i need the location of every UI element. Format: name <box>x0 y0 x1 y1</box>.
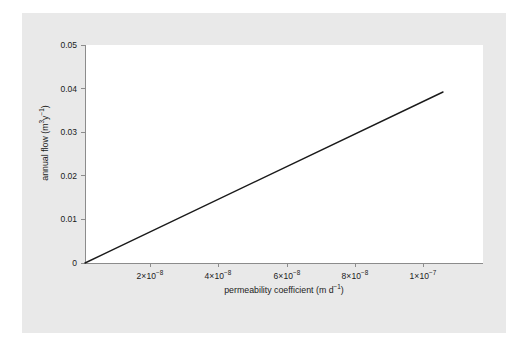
y-axis-title-exponent-2: −1 <box>38 108 45 115</box>
x-tick-label: 2×10−8 <box>137 272 164 281</box>
x-tick-exponent: −8 <box>156 269 163 276</box>
y-axis-title-prefix: annual flow (m <box>40 124 50 181</box>
x-tick-exponent: −8 <box>224 269 231 276</box>
x-tick-exponent: −8 <box>361 269 368 276</box>
x-tick-label: 1×10−7 <box>410 272 437 281</box>
y-axis-ticks <box>81 45 85 263</box>
y-axis-title-tail: ) <box>40 105 50 108</box>
x-axis-title-text: permeability coefficient (m d <box>224 285 333 295</box>
x-tick-label: 4×10−8 <box>205 272 232 281</box>
y-axis-title-mid: y <box>40 116 50 120</box>
figure-canvas: 0.05 0.04 0.03 0.02 0.01 0 2×10−8 4×10−8… <box>22 13 506 333</box>
x-axis-ticks <box>150 263 423 267</box>
x-axis-title-tail: ) <box>341 285 344 295</box>
data-line-annual-flow <box>85 92 443 263</box>
x-tick-label: 6×10−8 <box>274 272 301 281</box>
x-tick-exponent: −8 <box>293 269 300 276</box>
x-tick-exponent: −7 <box>429 269 436 276</box>
y-axis-title-exponent-1: 3 <box>38 120 45 124</box>
x-axis-title: permeability coefficient (m d−1) <box>85 285 483 295</box>
y-axis-title: annual flow (m3y−1) <box>40 63 50 223</box>
y-tick-label: 0.05 <box>41 41 77 50</box>
x-axis-title-exponent: −1 <box>334 283 341 290</box>
figure-root: 0.05 0.04 0.03 0.02 0.01 0 2×10−8 4×10−8… <box>0 0 527 347</box>
y-tick-label: 0 <box>41 259 77 268</box>
x-tick-label: 8×10−8 <box>342 272 369 281</box>
